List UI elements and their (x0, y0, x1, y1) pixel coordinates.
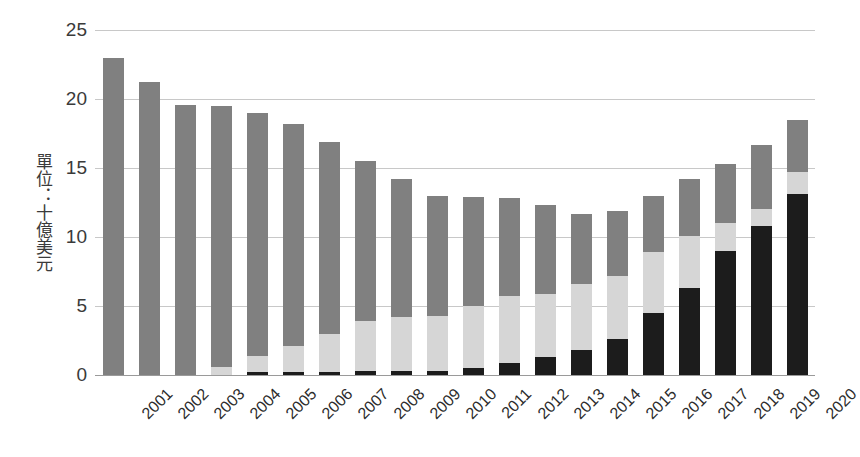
bar (751, 145, 772, 375)
x-axis-tick-label: 2014 (606, 385, 644, 423)
bar-segment-mid (463, 197, 484, 306)
bar-segment-light (499, 296, 520, 362)
bar (571, 214, 592, 375)
bar (715, 164, 736, 375)
bar-segment-light (427, 316, 448, 371)
bar (175, 105, 196, 375)
gridline (95, 168, 815, 169)
bar-segment-mid (499, 198, 520, 296)
bar-segment-light (355, 321, 376, 371)
gridline (95, 237, 815, 238)
bar (247, 113, 268, 375)
bar-segment-mid (355, 161, 376, 321)
bar (499, 198, 520, 375)
bar-segment-mid (175, 105, 196, 375)
x-axis-tick-label: 2012 (534, 385, 572, 423)
bar-segment-light (571, 284, 592, 350)
bar-segment-mid (427, 196, 448, 316)
bar-segment-light (679, 236, 700, 288)
gridline (95, 306, 815, 307)
bar (139, 82, 160, 375)
axis-baseline (95, 375, 815, 376)
bar-segment-mid (715, 164, 736, 223)
y-axis-tick-label: 25 (43, 20, 87, 39)
y-axis-tick-label: 10 (43, 227, 87, 246)
bar-segment-mid (535, 205, 556, 293)
bar-segment-mid (283, 124, 304, 346)
bar-segment-dark (679, 288, 700, 375)
bar-segment-mid (319, 142, 340, 334)
gridline (95, 30, 815, 31)
x-axis-tick-label: 2006 (318, 385, 356, 423)
y-axis-tick-label: 15 (43, 158, 87, 177)
y-axis-tick-label: 20 (43, 89, 87, 108)
x-axis-tick-label: 2005 (282, 385, 320, 423)
x-axis-tick-label: 2001 (138, 385, 176, 423)
bar-segment-mid (751, 145, 772, 210)
bar-segment-dark (715, 251, 736, 375)
bar (283, 124, 304, 375)
bar-segment-dark (499, 363, 520, 375)
bar-segment-light (463, 306, 484, 368)
bar-segment-mid (787, 120, 808, 172)
gridline (95, 99, 815, 100)
x-axis-tick-label: 2013 (570, 385, 608, 423)
bar-segment-light (715, 223, 736, 251)
x-axis-tick-label: 2016 (678, 385, 716, 423)
x-axis-tick-label: 2017 (714, 385, 752, 423)
x-axis-tick-label: 2007 (354, 385, 392, 423)
y-axis-tick-label: 5 (43, 296, 87, 315)
bar-segment-dark (571, 350, 592, 375)
bar-segment-mid (211, 106, 232, 368)
bar-segment-dark (787, 194, 808, 375)
bar (787, 120, 808, 375)
bar-segment-dark (355, 371, 376, 375)
bar-segment-light (283, 346, 304, 372)
bar-segment-light (247, 356, 268, 372)
bar-segment-dark (319, 372, 340, 375)
x-axis-tick-label: 2008 (390, 385, 428, 423)
bar-segment-mid (679, 179, 700, 236)
bar (607, 211, 628, 375)
bar-segment-light (211, 367, 232, 375)
bar (319, 142, 340, 375)
bar-segment-mid (391, 179, 412, 317)
bar (427, 196, 448, 375)
y-axis-title: 單位：十億美元 (18, 122, 52, 302)
plot-area: 0510152025 20012002200320042005200620072… (95, 30, 815, 375)
bar-segment-mid (571, 214, 592, 284)
bar-segment-mid (643, 196, 664, 253)
y-axis-tick-label: 0 (43, 365, 87, 384)
x-axis-tick-label: 2010 (462, 385, 500, 423)
bar-segment-light (391, 317, 412, 371)
bar-segment-dark (427, 371, 448, 375)
bar-segment-light (319, 334, 340, 372)
bar-segment-light (643, 252, 664, 313)
bar (103, 58, 124, 375)
bar-segment-dark (463, 368, 484, 375)
bar-segment-light (751, 209, 772, 226)
x-axis-tick-label: 2009 (426, 385, 464, 423)
bar (391, 179, 412, 375)
bar-segment-dark (283, 372, 304, 375)
x-axis-tick-label: 2018 (750, 385, 788, 423)
bar-segment-dark (751, 226, 772, 375)
bar-segment-dark (607, 339, 628, 375)
x-axis-tick-label: 2003 (210, 385, 248, 423)
bar (643, 196, 664, 375)
bar-segment-mid (103, 58, 124, 375)
bar-segment-mid (247, 113, 268, 356)
bar (463, 197, 484, 375)
x-axis-tick-label: 2011 (498, 385, 535, 422)
bar-segment-mid (607, 211, 628, 276)
x-axis-tick-label: 2015 (642, 385, 680, 423)
bar-segment-dark (643, 313, 664, 375)
bar-segment-mid (139, 82, 160, 375)
bar-segment-dark (535, 357, 556, 375)
x-axis-tick-label: 2002 (174, 385, 212, 423)
x-axis-tick-label: 2020 (822, 385, 860, 423)
bar-segment-light (787, 172, 808, 194)
bar-segment-dark (247, 372, 268, 375)
bar (355, 161, 376, 375)
